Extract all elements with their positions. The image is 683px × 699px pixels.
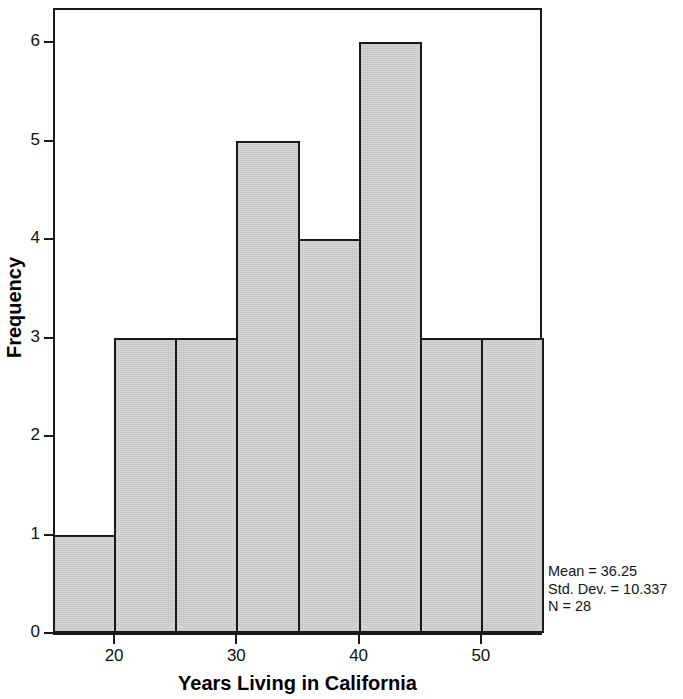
x-tick-label: 30	[216, 646, 256, 666]
y-axis-title: Frequency	[3, 198, 26, 418]
y-tick-mark	[44, 140, 53, 142]
x-tick-mark	[235, 633, 237, 644]
annotation-n: N = 28	[548, 598, 667, 616]
x-tick-label: 50	[461, 646, 501, 666]
y-tick-label: 2	[31, 425, 40, 445]
y-tick-label: 4	[31, 228, 40, 248]
y-tick-label: 6	[31, 31, 40, 51]
x-axis-title: Years Living in California	[53, 672, 542, 695]
histogram-bar	[298, 239, 361, 633]
x-tick-mark	[358, 633, 360, 644]
histogram-bar	[175, 338, 238, 633]
histogram-bar	[420, 338, 483, 633]
histogram-figure: 0123456 Frequency 20304050 Years Living …	[0, 0, 683, 699]
statistics-annotation: Mean = 36.25 Std. Dev. = 10.337 N = 28	[548, 563, 667, 616]
annotation-mean: Mean = 36.25	[548, 563, 667, 581]
y-tick-mark	[44, 435, 53, 437]
x-tick-mark	[113, 633, 115, 644]
histogram-bars	[53, 8, 542, 633]
y-tick-mark	[44, 337, 53, 339]
histogram-bar	[236, 141, 299, 633]
histogram-bar	[114, 338, 177, 633]
y-tick-label: 5	[31, 130, 40, 150]
histogram-bar	[359, 42, 422, 633]
annotation-std-dev: Std. Dev. = 10.337	[548, 581, 667, 599]
y-tick-label: 3	[31, 327, 40, 347]
x-tick-label: 20	[94, 646, 134, 666]
y-tick-mark	[44, 238, 53, 240]
y-tick-mark	[44, 534, 53, 536]
histogram-bar	[53, 535, 116, 633]
x-tick-mark	[480, 633, 482, 644]
y-tick-label: 1	[31, 524, 40, 544]
histogram-bar	[481, 338, 544, 633]
y-tick-mark	[44, 41, 53, 43]
x-tick-label: 40	[339, 646, 379, 666]
